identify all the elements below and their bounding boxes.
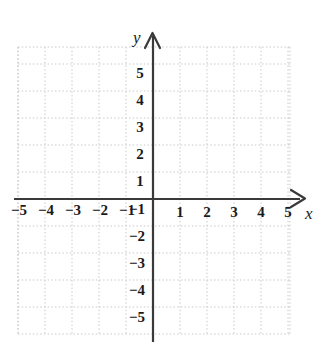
x-tick-label-pos1: 1 [172,205,188,220]
x-tick-label-pos3: 3 [226,205,242,220]
y-tick-label-neg4: −4 [126,283,148,298]
x-axis-label: x [305,205,313,222]
x-tick-label-pos5: 5 [280,205,296,220]
axis-lines [14,36,300,342]
y-tick-label-pos1: 1 [132,174,148,189]
y-axis-label: y [133,29,141,46]
y-tick-label-neg3: −3 [126,256,148,271]
x-tick-label-neg2: −2 [89,203,111,218]
y-tick-label-pos3: 3 [132,120,148,135]
coordinate-plane-figure: y x −5 −4 −3 −2 −1 1 2 3 4 5 5 4 3 2 1 −… [0,0,332,348]
x-tick-label-neg3: −3 [62,203,84,218]
axis-arrowheads [145,33,305,207]
y-tick-label-neg2: −2 [126,229,148,244]
x-tick-label-pos2: 2 [199,205,215,220]
y-tick-label-neg5: −5 [126,310,148,325]
coordinate-plane-svg [0,0,332,348]
x-tick-label-neg5: −5 [8,203,30,218]
x-tick-label-neg4: −4 [35,203,57,218]
y-tick-label-neg1: −1 [126,202,148,217]
y-tick-label-pos5: 5 [132,66,148,81]
x-tick-label-pos4: 4 [253,205,269,220]
y-tick-label-pos4: 4 [132,93,148,108]
y-tick-label-pos2: 2 [132,147,148,162]
